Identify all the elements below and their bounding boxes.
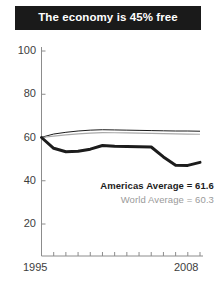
y-tick-holder: 20: [0, 224, 36, 225]
y-axis-tick-label: 20: [2, 218, 36, 229]
legend-item-americas: Americas Average = 61.6: [96, 179, 214, 193]
chart-card: The economy is 45% free 20406080100 1995…: [0, 0, 216, 301]
y-axis-tick-label: 80: [2, 88, 36, 99]
chart-legend: Americas Average = 61.6 World Average = …: [96, 179, 214, 206]
series-line-americas-average: [42, 138, 201, 166]
y-axis-tick-label: 40: [2, 175, 36, 186]
y-tick-holder: 100: [0, 51, 36, 52]
x-axis-label-start: 1995: [23, 262, 47, 273]
legend-item-world: World Average = 60.3: [96, 193, 214, 207]
y-tick-holder: 40: [0, 180, 36, 181]
y-tick-holder: 80: [0, 94, 36, 95]
y-axis-tick-label: 60: [2, 132, 36, 143]
y-tick-holder: 60: [0, 137, 36, 138]
series-line-world-average: [42, 133, 201, 138]
x-axis-label-end: 2008: [174, 262, 198, 273]
y-axis-tick-label: 100: [2, 45, 36, 56]
